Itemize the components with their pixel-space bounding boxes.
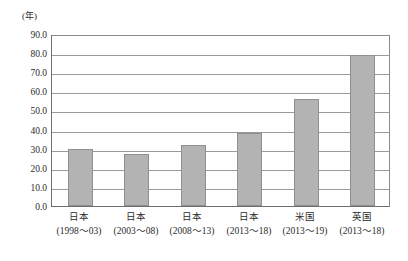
gridline-40: [52, 132, 389, 133]
bar: [68, 149, 93, 206]
y-tick-label: 50.0: [7, 106, 47, 116]
gridline-80: [52, 55, 389, 56]
bar: [124, 154, 149, 206]
y-tick-label: 30.0: [7, 145, 47, 155]
bar: [237, 133, 262, 206]
bar: [350, 55, 375, 206]
y-axis-unit-label: (年): [22, 11, 37, 22]
bar-chart: (年) 90.080.070.060.050.040.030.020.010.0…: [0, 0, 408, 261]
x-axis-category-labels: 日本(1998〜03)日本(2003〜08)日本(2008〜13)日本(2013…: [51, 210, 390, 256]
y-tick-label: 70.0: [7, 68, 47, 78]
bar: [181, 145, 206, 206]
y-tick-label: 60.0: [7, 87, 47, 97]
y-tick-label: 10.0: [7, 183, 47, 193]
plot-area: [51, 35, 390, 207]
y-tick-label: 20.0: [7, 164, 47, 174]
gridline-20: [52, 170, 389, 171]
x-axis-category-name: 英国: [323, 210, 401, 224]
gridline-70: [52, 74, 389, 75]
gridline-60: [52, 93, 389, 94]
y-tick-label: 90.0: [7, 30, 47, 40]
y-tick-label: 40.0: [7, 126, 47, 136]
gridline-10: [52, 189, 389, 190]
x-axis-category: 英国(2013〜18): [323, 210, 401, 238]
x-axis-category-period: (2013〜18): [323, 224, 401, 238]
y-tick-label: 80.0: [7, 49, 47, 59]
gridline-30: [52, 151, 389, 152]
gridline-50: [52, 112, 389, 113]
bar: [294, 99, 319, 206]
